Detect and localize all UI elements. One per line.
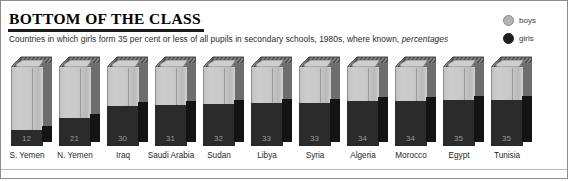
girls-share-band-side [330,99,340,142]
girls-share-band-side [186,101,196,142]
infographic-panel: BOTTOM OF THE CLASS Countries in which g… [0,0,568,179]
girls-share-band-side [138,102,148,142]
book-bar: 34 [395,56,436,148]
book-bar: 31 [155,56,196,148]
legend: boys girls [503,11,561,47]
girls-share-band-side [234,100,244,142]
book-bar: 30 [107,56,148,148]
value-label: 33 [251,134,282,143]
value-label: 33 [299,134,330,143]
value-label: 34 [395,134,426,143]
subtitle-italic-text: percentages [402,34,449,44]
girls-share-band-side [378,97,388,142]
value-label: 35 [491,134,522,143]
girls-share-band-side [42,126,52,142]
value-label: 12 [11,134,42,143]
book-bar: 35 [491,56,532,148]
subtitle-main-text: Countries in which girls form 35 per cen… [9,34,399,44]
girls-share-band-side [522,96,532,142]
circle-icon [503,15,514,26]
book-bar: 33 [299,56,340,148]
value-label: 30 [107,134,138,143]
circle-icon [503,33,514,44]
legend-item-boys: boys [503,11,561,29]
bottom-divider [1,169,568,170]
value-label: 31 [155,134,186,143]
book-bar: 35 [443,56,484,148]
title-underline [8,29,204,32]
page-title: BOTTOM OF THE CLASS [9,10,201,28]
value-label: 32 [203,134,234,143]
legend-label-boys: boys [519,16,536,25]
girls-share-band-side [474,96,484,142]
category-labels: S. YemenN. YemenIraqSaudi ArabiaSudanLib… [1,151,568,165]
girls-share-band-side [282,99,292,142]
value-label: 35 [443,134,474,143]
legend-item-girls: girls [503,29,561,47]
legend-label-girls: girls [519,34,534,43]
value-label: 34 [347,134,378,143]
subtitle: Countries in which girls form 35 per cen… [9,34,448,44]
book-bar: 21 [59,56,100,148]
book-bar: 34 [347,56,388,148]
category-label: Tunisia [479,151,535,160]
book-bar: 12 [11,56,52,148]
book-bar: 33 [251,56,292,148]
book-chart: 1221303132333334343535 [5,56,535,148]
value-label: 21 [59,134,90,143]
girls-share-band-side [426,97,436,142]
girls-share-band-side [90,114,100,142]
book-bar: 32 [203,56,244,148]
